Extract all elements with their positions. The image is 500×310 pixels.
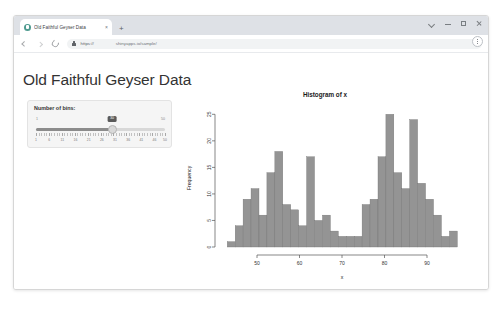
histogram-bar: [235, 226, 243, 247]
slider-tick: [111, 133, 112, 136]
y-axis-tick-label: 10: [206, 191, 212, 197]
app-page: Old Faithful Geyser Data Number of bins:…: [14, 53, 488, 289]
slider-tick: [162, 133, 163, 136]
slider-tick: [54, 133, 55, 136]
slider-tick: [103, 133, 104, 136]
chart-canvas: 05101520255060708090xFrequency: [179, 91, 471, 289]
slider-tick: [137, 133, 138, 136]
histogram-bar: [346, 236, 354, 247]
slider-tick: [101, 133, 102, 136]
browser-toolbar: https:// shinyapps.io/sample/: [14, 35, 488, 53]
slider-tick: [51, 133, 52, 136]
histogram-bar: [378, 157, 386, 247]
forward-icon[interactable]: [36, 40, 44, 48]
screenshot-root: Old Faithful Geyser Data × + https:// sh…: [0, 0, 500, 310]
slider-tick-label: 6: [48, 138, 50, 142]
slider-tick-label: 26: [100, 138, 104, 142]
slider-tick: [160, 133, 161, 136]
histogram-bar: [441, 236, 449, 247]
histogram-bar: [394, 173, 402, 247]
slider-tick-label: 46: [153, 138, 157, 142]
reload-icon[interactable]: [51, 39, 60, 48]
y-axis-title: Frequency: [186, 165, 192, 190]
histogram-bar: [338, 236, 346, 247]
slider-tick: [152, 133, 153, 136]
slider-tick: [62, 133, 63, 136]
slider-tick-label: 50: [163, 138, 167, 142]
y-axis-tick-label: 15: [206, 164, 212, 170]
browser-menu-icon[interactable]: [472, 36, 483, 47]
slider-tick-label: 41: [139, 138, 143, 142]
slider-tick: [106, 133, 107, 136]
tab-strip: Old Faithful Geyser Data × +: [14, 16, 488, 35]
slider-tick-scale: 16111621263136414650: [36, 133, 165, 145]
histogram-bar: [315, 220, 323, 247]
slider-max-label: 50: [161, 117, 165, 121]
close-icon[interactable]: ×: [105, 25, 108, 30]
histogram-bar: [322, 215, 330, 247]
slider-tick: [93, 133, 94, 136]
minimize-icon[interactable]: [444, 20, 451, 27]
slider-tick-label: 11: [61, 138, 65, 142]
slider-tick: [129, 133, 130, 136]
histogram-bar: [291, 210, 299, 247]
url-host: shinyapps.io/sample/: [116, 41, 157, 46]
slider-tick: [41, 133, 42, 136]
y-axis-tick-label: 5: [206, 219, 212, 222]
shiny-favicon-icon: [24, 24, 31, 31]
slider-tick: [108, 133, 109, 136]
window-controls: [428, 20, 483, 27]
slider-tick: [82, 133, 83, 136]
slider-tick-label: 31: [113, 138, 117, 142]
histogram-bar: [299, 226, 307, 247]
slider-tick: [155, 133, 156, 136]
histogram-bar: [362, 205, 370, 247]
url-scheme: https://: [81, 41, 94, 46]
bins-slider[interactable]: 1 50 30 16111621263136414650: [36, 117, 165, 145]
slider-tick: [95, 133, 96, 136]
histogram-bar: [283, 205, 291, 247]
slider-tick: [59, 133, 60, 136]
slider-tick: [90, 133, 91, 136]
sidebar-panel: Number of bins: 1 50 30 1611162126313641…: [27, 100, 172, 148]
y-axis-tick-label: 0: [206, 245, 212, 248]
x-axis-tick-label: 90: [424, 260, 430, 266]
slider-tick: [75, 133, 76, 136]
x-axis-tick-label: 70: [339, 260, 345, 266]
new-tab-button[interactable]: +: [119, 25, 124, 33]
histogram-bar: [426, 199, 434, 247]
x-axis-tick-label: 50: [254, 260, 260, 266]
histogram-bar: [227, 242, 235, 247]
slider-tick-label: 1: [35, 138, 37, 142]
lock-icon: [72, 41, 77, 46]
histogram-bar: [307, 157, 315, 247]
slider-fill: [36, 128, 112, 131]
slider-tick: [44, 133, 45, 136]
histogram-bar: [243, 199, 251, 247]
slider-tick: [124, 133, 125, 136]
page-title: Old Faithful Geyser Data: [23, 71, 191, 89]
histogram-bar: [259, 215, 267, 247]
slider-tick: [72, 133, 73, 136]
maximize-icon[interactable]: [460, 20, 467, 27]
slider-tick: [98, 133, 99, 136]
back-icon[interactable]: [20, 40, 28, 48]
x-axis-title: x: [341, 274, 344, 280]
slider-tick: [134, 133, 135, 136]
histogram-bar: [418, 183, 426, 247]
slider-tick: [144, 133, 145, 136]
slider-tick: [77, 133, 78, 136]
slider-track[interactable]: [36, 128, 165, 131]
slider-value-bubble: 30: [108, 116, 117, 122]
slider-tick: [126, 133, 127, 136]
slider-tick: [36, 133, 37, 136]
histogram-bar: [330, 231, 338, 247]
browser-tab[interactable]: Old Faithful Geyser Data ×: [20, 19, 112, 35]
chevron-down-icon[interactable]: [428, 20, 435, 27]
histogram-bar: [275, 151, 283, 247]
address-bar[interactable]: https:// shinyapps.io/sample/: [67, 39, 483, 49]
window-close-icon[interactable]: [476, 20, 483, 27]
histogram-bar: [251, 189, 259, 247]
slider-tick: [147, 133, 148, 136]
slider-tick: [85, 133, 86, 136]
